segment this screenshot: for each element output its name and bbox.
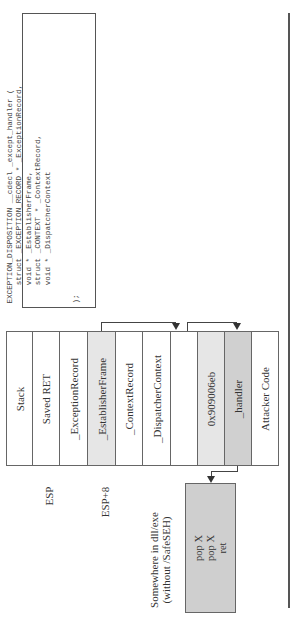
stack-header-label: Stack [14,386,26,410]
arrow-handler-bar [211,471,238,472]
instruction-line: ret [217,535,229,561]
code-line: struct _EXCEPTION_RECORD * _ExceptionRec… [15,85,23,304]
stack-cell-empty [170,331,198,466]
code-line: struct _CONTEXT * _ContextRecord, [34,135,42,304]
arrow-down-icon [172,323,180,330]
stack-cell-exception-record: _ExceptionRecord [59,331,88,466]
page-edge-rule [288,13,290,608]
arrow-next-seh-bar [187,322,237,323]
code-line: void * _DispatcherContext [44,171,52,303]
arrow-next-seh-stem [187,322,188,331]
esp-label: ESP [43,487,55,506]
arrow-establisher-frame-bar [101,322,176,323]
arrow-down-icon [233,323,241,330]
caption-line-1: Somewhere in dll/exe [148,500,160,617]
stack-header-cell: Stack [6,331,33,466]
stack-cell-handler: _handler [224,331,252,466]
handler-prototype-code: EXCEPTION_DISPOSITION __cdecl _except_ha… [0,13,74,308]
esp-plus-8-label: ESP+8 [99,487,111,518]
instruction-line: pop X [205,535,217,561]
cell-label: _DispatcherContext [151,355,163,443]
cell-label: _ContextRecord [123,362,135,434]
stack-cell-dispatcher-context: _DispatcherContext [142,331,171,466]
stack-cell-establisher-frame: _EstablisherFrame [87,331,116,466]
cell-label: Saved RET [40,373,52,423]
cell-label: Attacker Code [259,367,271,431]
arrow-down-icon [207,476,215,483]
stack-cell-next-seh: 0x909006eb [197,331,225,466]
code-line: EXCEPTION_DISPOSITION __cdecl _except_ha… [6,89,14,303]
cell-label: _ExceptionRecord [68,358,80,440]
stack-cell-context-record: _ContextRecord [115,331,143,466]
code-line: ); [72,294,80,303]
gadget-instructions: pop X pop X ret [193,535,229,561]
cell-label: _EstablisherFrame [96,357,108,439]
gadget-location-caption: Somewhere in dll/exe (without /SafeSEH) [148,500,172,617]
stack-cell-saved-ret: Saved RET [32,331,60,466]
arrow-establisher-frame-stem [101,322,102,331]
stack-cell-attacker-code: Attacker Code [251,331,279,466]
instruction-line: pop X [193,535,205,561]
code-line: void * _EstablisherFrame, [25,171,33,303]
pop-pop-ret-gadget-box: pop X pop X ret [185,483,236,613]
cell-label: 0x909006eb [205,371,217,425]
caption-line-2: (without /SafeSEH) [160,500,172,617]
cell-label: _handler [232,379,244,417]
